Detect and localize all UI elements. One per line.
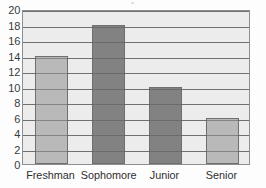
y-axis-tick-labels: 20181614121086420 [0, 10, 20, 165]
x-axis-label-sophomore: Sophomore [81, 167, 135, 183]
y-axis-tick-12: 12 [0, 67, 20, 78]
scan-artifact-speck [131, 2, 134, 4]
bar-senior [206, 118, 239, 165]
bar-junior [149, 87, 182, 165]
y-axis-tick-0: 0 [0, 160, 20, 171]
x-axis-label-freshman: Freshman [24, 167, 78, 183]
bar-chart: 20181614121086420 FreshmanSophomoreJunio… [0, 0, 266, 188]
x-axis-label-senior: Senior [195, 167, 249, 183]
y-axis-tick-20: 20 [0, 5, 20, 16]
y-axis-tick-16: 16 [0, 36, 20, 47]
y-axis-tick-18: 18 [0, 20, 20, 31]
y-axis-tick-6: 6 [0, 113, 20, 124]
bar-freshman [35, 56, 68, 165]
bar-sophomore [92, 25, 125, 165]
x-axis-category-labels: FreshmanSophomoreJuniorSenior [22, 167, 250, 185]
x-axis-label-junior: Junior [138, 167, 192, 183]
y-axis-tick-2: 2 [0, 144, 20, 155]
bars-group [23, 11, 249, 164]
y-axis-tick-8: 8 [0, 98, 20, 109]
y-axis-tick-14: 14 [0, 51, 20, 62]
y-axis-tick-10: 10 [0, 82, 20, 93]
y-axis-tick-4: 4 [0, 129, 20, 140]
plot-area [22, 10, 250, 165]
